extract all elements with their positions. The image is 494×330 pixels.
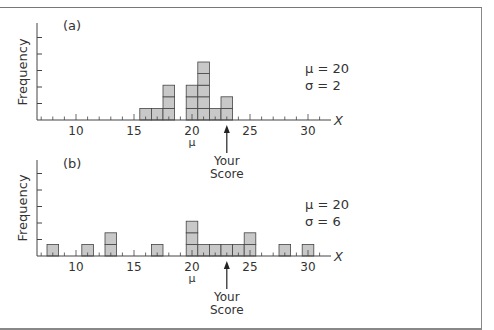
histogram-cell [198,85,210,97]
stat-mu: μ = 20 [305,197,349,212]
x-tick-label: 30 [300,124,315,138]
panel-label: (b) [63,156,81,171]
x-tick-label: 15 [126,124,141,138]
histogram-cell [163,85,175,97]
histogram-cell [105,233,117,245]
x-tick-label: 25 [242,260,257,274]
x-axis-label: X [333,249,344,264]
x-tick-label: 30 [300,260,315,274]
histogram-cell [198,74,210,86]
your-score-label: Score [210,167,244,181]
x-tick-label: 25 [242,124,257,138]
histogram-cell [198,62,210,74]
arrow-up-icon [224,261,230,269]
stat-sigma: σ = 6 [305,214,341,229]
arrow-up-icon [224,125,230,133]
x-axis-label: X [333,113,344,128]
x-tick-label: 10 [68,124,83,138]
your-score-label: Your [213,290,240,304]
histogram-cell [221,97,233,109]
stat-mu: μ = 20 [305,61,349,76]
histogram-cell [163,97,175,109]
panel-label: (a) [63,18,81,33]
your-score-label: Score [210,303,244,317]
histogram-cell [186,233,198,245]
x-tick-label: 15 [126,260,141,274]
mean-marker: μ [189,272,196,285]
histogram-cell [244,233,256,245]
your-score-label: Your [213,154,240,168]
y-axis-label: Frequency [15,38,30,105]
histogram-cell [198,97,210,109]
mean-marker: μ [189,136,196,149]
histogram-cell [186,221,198,233]
x-tick-label: 10 [68,260,83,274]
y-axis-label: Frequency [15,174,30,241]
stat-sigma: σ = 2 [305,78,341,93]
histogram-cell [186,97,198,109]
histogram-cell [186,85,198,97]
